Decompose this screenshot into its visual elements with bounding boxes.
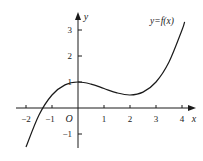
origin-label: O <box>65 113 72 124</box>
curve-label: y=f(x) <box>149 16 174 27</box>
y-axis-label: y <box>83 11 89 22</box>
y-tick-label: 1 <box>68 77 73 87</box>
function-graph: −2 −1 1 2 3 4 O 3 2 1 −1 x y y=f(x) <box>0 0 203 161</box>
x-tick-label: −2 <box>21 114 31 124</box>
x-tick-label: 3 <box>154 114 159 124</box>
x-tick-label: 1 <box>102 114 107 124</box>
y-axis-arrow-icon <box>75 12 81 20</box>
x-axis-arrow-icon <box>188 105 196 111</box>
y-tick-label: −1 <box>62 129 72 139</box>
y-tick-label: 2 <box>68 51 73 61</box>
x-tick-label: 2 <box>128 114 133 124</box>
function-curve <box>26 22 185 147</box>
x-axis-label: x <box>191 113 197 124</box>
x-tick-label: −1 <box>45 114 55 124</box>
x-tick-label: 4 <box>180 114 185 124</box>
y-tick-label: 3 <box>68 25 73 35</box>
